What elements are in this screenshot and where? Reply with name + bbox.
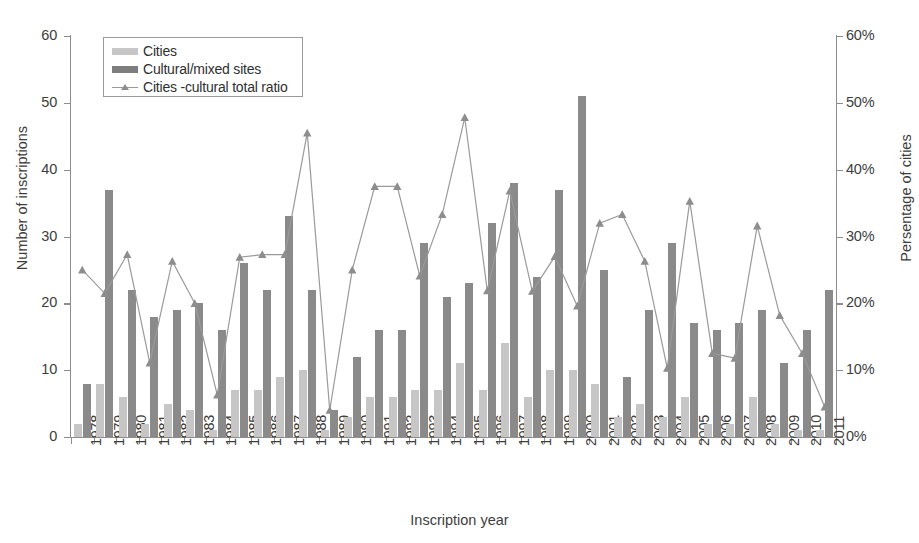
legend-label-ratio: Cities -cultural total ratio (143, 79, 288, 95)
bar-cultural-2005 (690, 323, 698, 437)
y-axis-right-tick (837, 237, 843, 238)
bar-cities-1986 (254, 390, 262, 437)
bar-cultural-1995 (465, 283, 473, 437)
bar-cities-2007 (726, 424, 734, 437)
y-axis-left-tick-label: 0 (49, 428, 57, 444)
bar-cultural-1993 (420, 243, 428, 437)
bar-cities-1996 (479, 390, 487, 437)
bar-cities-1997 (501, 343, 509, 437)
bar-cultural-1992 (398, 330, 406, 437)
bar-cities-1987 (276, 377, 284, 437)
legend-label-cities: Cities (143, 43, 177, 59)
bar-cultural-1979 (105, 190, 113, 437)
y-axis-left-tick (64, 103, 70, 104)
y-axis-right-tick (837, 36, 843, 37)
y-axis-left-tick (64, 437, 70, 438)
bar-cultural-1986 (263, 290, 271, 437)
bar-cultural-2002 (623, 377, 631, 437)
y-axis-right-tick-label: 60% (846, 27, 874, 43)
y-axis-right-tick-label: 10% (846, 361, 874, 377)
chart-legend: Cities Cultural/mixed sites Cities -cult… (103, 37, 303, 97)
bar-cultural-1999 (555, 190, 563, 437)
bar-cities-1982 (164, 404, 172, 437)
bar-cultural-1982 (173, 310, 181, 437)
bar-cultural-1981 (150, 317, 158, 437)
bar-cultural-1985 (240, 263, 248, 437)
bar-cities-1983 (186, 410, 194, 437)
bar-cultural-2008 (758, 310, 766, 437)
bar-cities-2003 (636, 404, 644, 437)
y-axis-left-tick-label: 20 (41, 294, 57, 310)
y-axis-right-tick-label: 50% (846, 94, 874, 110)
bar-cultural-2006 (713, 330, 721, 437)
y-axis-left-tick-label: 30 (41, 228, 57, 244)
y-axis-left-tick (64, 170, 70, 171)
y-axis-left-tick (64, 370, 70, 371)
bar-cultural-1991 (375, 330, 383, 437)
bar-cultural-2001 (600, 270, 608, 437)
bar-cultural-1994 (443, 297, 451, 437)
bar-cities-2005 (681, 397, 689, 437)
bar-cities-1979 (96, 384, 104, 437)
bar-cities-2009 (771, 424, 779, 437)
bar-cities-1989 (321, 430, 329, 437)
y-axis-left-tick (64, 237, 70, 238)
bar-cities-2008 (749, 397, 757, 437)
bar-cultural-1998 (533, 277, 541, 437)
bar-cities-1999 (546, 370, 554, 437)
y-axis-right-tick-label: 20% (846, 294, 874, 310)
bar-cultural-2003 (645, 310, 653, 437)
legend-line-triangle-icon (112, 83, 138, 92)
bar-cities-1998 (524, 397, 532, 437)
bar-cities-2010 (794, 430, 802, 437)
y-axis-left-tick-label: 40 (41, 161, 57, 177)
bar-cultural-2007 (735, 323, 743, 437)
bar-cities-1990 (344, 417, 352, 437)
bar-cultural-1983 (195, 303, 203, 437)
bar-cities-1980 (119, 397, 127, 437)
bar-cultural-2004 (668, 243, 676, 437)
x-axis-title: Inscription year (0, 512, 919, 528)
bar-cities-1984 (209, 430, 217, 437)
chart-container: 0102030405060 0%10%20%30%40%50%60% 19781… (0, 0, 919, 543)
bar-cultural-1996 (488, 223, 496, 437)
bar-cultural-1978 (83, 384, 91, 437)
y-axis-right-tick-label: 40% (846, 161, 874, 177)
y-axis-right-tick-label: 30% (846, 228, 874, 244)
legend-item-cultural: Cultural/mixed sites (112, 60, 296, 78)
bar-cities-1985 (231, 390, 239, 437)
y-axis-right-tick (837, 370, 843, 371)
y-axis-left-tick-label: 60 (41, 27, 57, 43)
y-axis-right-tick-label: 0% (846, 428, 867, 444)
bar-cities-2004 (659, 417, 667, 437)
legend-swatch-cities-icon (112, 48, 138, 55)
y-axis-right-tick (837, 170, 843, 171)
bar-cities-1988 (299, 370, 307, 437)
bar-cities-2011 (816, 430, 824, 437)
legend-label-cultural: Cultural/mixed sites (143, 61, 261, 77)
bar-cities-2002 (614, 417, 622, 437)
y-axis-left-tick-label: 50 (41, 94, 57, 110)
bar-cultural-1980 (128, 290, 136, 437)
bar-cities-1991 (366, 397, 374, 437)
bar-cities-1995 (456, 363, 464, 437)
bar-cities-1981 (141, 424, 149, 437)
bar-cities-2006 (704, 424, 712, 437)
bar-cities-2001 (591, 384, 599, 437)
y-axis-left-tick (64, 36, 70, 37)
bar-cities-1993 (411, 390, 419, 437)
bar-cultural-2010 (803, 330, 811, 437)
y-axis-right-tick (837, 303, 843, 304)
y-axis-left-tick-label: 10 (41, 361, 57, 377)
bar-cultural-2011 (825, 290, 833, 437)
legend-item-ratio: Cities -cultural total ratio (112, 78, 296, 96)
y-axis-right-title: Persentage of cities (898, 98, 914, 298)
bar-cultural-1984 (218, 330, 226, 437)
legend-swatch-cultural-icon (112, 66, 138, 73)
bar-cultural-1989 (330, 410, 338, 437)
bar-cultural-1990 (353, 357, 361, 437)
bar-cities-1994 (434, 390, 442, 437)
bar-cultural-2009 (780, 363, 788, 437)
legend-item-cities: Cities (112, 42, 296, 60)
bar-cultural-1988 (308, 290, 316, 437)
